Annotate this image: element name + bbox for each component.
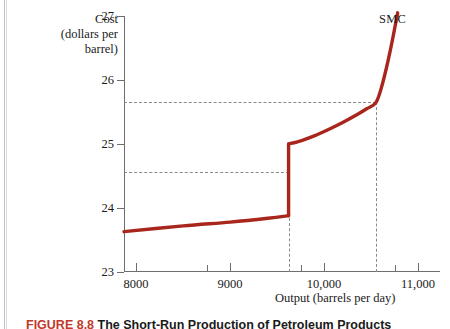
x-tick-label-11000: 11,000 bbox=[401, 278, 435, 291]
figure-container: Cost (dollars per barrel) 23 24 25 26 27… bbox=[0, 0, 450, 329]
y-tick-23 bbox=[117, 272, 124, 273]
y-tick-label-26: 26 bbox=[102, 74, 115, 87]
x-tick-label-10000: 10,000 bbox=[307, 278, 341, 291]
y-tick-27 bbox=[117, 16, 124, 17]
page-margin-rule-secondary bbox=[6, 0, 7, 329]
smc-convex-rising-upper-branch bbox=[289, 13, 398, 144]
y-tick-25 bbox=[117, 144, 124, 145]
plot-area: 23 24 25 26 27 8000 9000 10,000 11,000 bbox=[124, 16, 440, 272]
y-axis-title-line-2: (dollars per bbox=[34, 27, 118, 42]
x-axis-title: Output (barrels per day) bbox=[275, 292, 395, 305]
page-margin-rule bbox=[4, 0, 5, 329]
x-tick-label-9000: 9000 bbox=[218, 278, 243, 291]
y-axis-title-line-3: barrel) bbox=[34, 42, 118, 57]
y-tick-24 bbox=[117, 208, 124, 209]
smc-gently-rising-lower-branch bbox=[124, 216, 289, 232]
figure-caption-number: FIGURE 8.8 bbox=[26, 318, 94, 329]
y-tick-label-24: 24 bbox=[102, 202, 115, 215]
smc-curve-label: SMC bbox=[379, 13, 406, 26]
y-tick-label-27: 27 bbox=[102, 10, 115, 23]
figure-caption: FIGURE 8.8 The Short-Run Production of P… bbox=[26, 318, 391, 329]
x-tick-label-8000: 8000 bbox=[124, 278, 149, 291]
smc-curve bbox=[124, 16, 440, 272]
y-tick-26 bbox=[117, 80, 124, 81]
y-tick-label-23: 23 bbox=[102, 266, 115, 279]
figure-caption-title: The Short-Run Production of Petroleum Pr… bbox=[98, 318, 392, 329]
y-tick-label-25: 25 bbox=[102, 138, 115, 151]
